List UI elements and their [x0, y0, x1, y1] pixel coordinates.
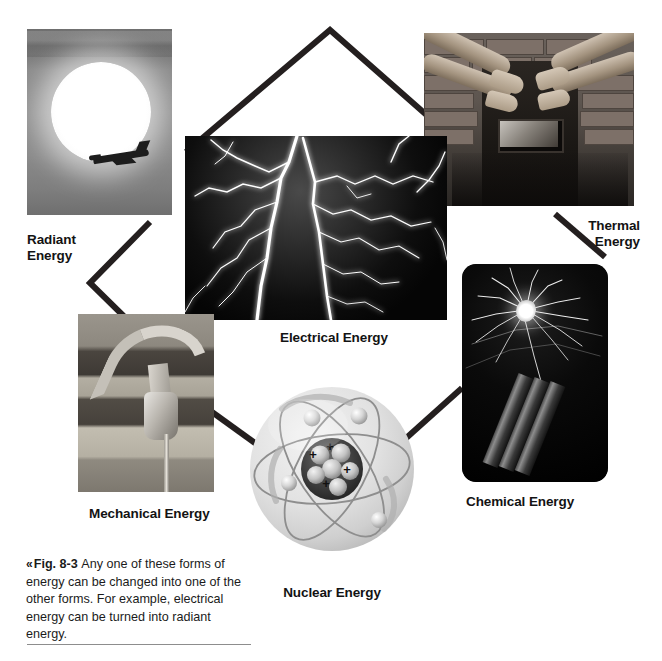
- label-electrical-energy: Electrical Energy: [280, 330, 460, 346]
- mechanical-energy-photo: [78, 314, 214, 492]
- nuclear-atom-illustration: + + + +: [246, 383, 418, 555]
- sky-haze: [27, 31, 172, 57]
- electrical-energy-photo: [185, 136, 447, 320]
- night-sky-background: [185, 136, 447, 320]
- caption-chevron-icon: «: [26, 557, 33, 571]
- nail: [164, 434, 169, 492]
- brick: [424, 93, 474, 109]
- radiant-energy-photo: [27, 29, 172, 215]
- figure-page: Radiant Energy: [0, 0, 662, 661]
- wood-boards-background: [78, 314, 214, 492]
- sun-sky-background: [27, 29, 172, 215]
- label-radiant-energy: Radiant Energy: [27, 232, 147, 264]
- label-nuclear-energy: Nuclear Energy: [242, 585, 422, 601]
- figure-caption: «Fig. 8-3 Any one of these forms of ener…: [26, 556, 254, 644]
- brick: [424, 111, 478, 127]
- lightning-bolts: [185, 136, 447, 320]
- firewood-pile: [452, 153, 628, 206]
- brick: [580, 111, 634, 127]
- nucleon: [329, 478, 347, 496]
- electron: [281, 475, 297, 491]
- brick: [582, 93, 634, 109]
- thermal-energy-photo: [424, 33, 634, 206]
- connector-radiant-thermal: [186, 30, 455, 152]
- dark-background: [462, 264, 608, 482]
- atom-sphere-gloss: [268, 399, 348, 451]
- caption-figure-number: Fig. 8-3: [34, 557, 78, 571]
- proton-plus: +: [343, 462, 351, 477]
- stove-fire-glow: [500, 121, 558, 147]
- stove-room-background: [424, 33, 634, 206]
- electron: [371, 512, 387, 528]
- electron: [351, 408, 368, 425]
- label-mechanical-energy: Mechanical Energy: [89, 506, 269, 522]
- proton-plus: +: [322, 476, 330, 491]
- stove-door: [498, 119, 564, 153]
- hammer-head: [144, 392, 178, 440]
- label-chemical-energy: Chemical Energy: [466, 494, 646, 510]
- chemical-energy-photo: [462, 264, 608, 482]
- label-thermal-energy: Thermal Energy: [514, 218, 640, 250]
- brick: [584, 129, 634, 145]
- caption-divider: [27, 644, 251, 645]
